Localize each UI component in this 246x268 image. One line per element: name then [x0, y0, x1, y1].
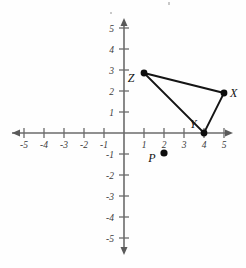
y-tick-label: 2: [109, 87, 114, 97]
point-labels: Z X Y P: [128, 71, 238, 165]
point-marker-x: [221, 90, 228, 97]
x-axis-right-arrow-icon: [225, 130, 233, 137]
y-axis-bottom-arrow-icon: [121, 247, 128, 255]
y-tick-label: -3: [106, 192, 114, 202]
coordinate-plane-figure: -5 -4 -3 -2 -1 1 2 3 4 5 1 2 3 4 5 -1 -2…: [0, 0, 246, 268]
y-tick-label: 4: [109, 45, 114, 55]
x-tick-label: 1: [142, 140, 147, 150]
x-tick-label: 2: [162, 140, 167, 150]
x-tick-label: -5: [20, 140, 28, 150]
x-tick-label: -2: [80, 140, 88, 150]
point-marker-z: [141, 70, 148, 77]
x-tick-label: 3: [181, 140, 187, 150]
y-tick-label: -2: [106, 171, 114, 181]
y-tick-label: -5: [106, 234, 114, 244]
x-axis-left-arrow-icon: [12, 130, 20, 137]
point-label-z: Z: [128, 71, 135, 85]
y-tick-label: 3: [108, 66, 114, 76]
x-tick-label: 4: [202, 140, 207, 150]
point-label-p: P: [147, 151, 156, 165]
scan-artifact: [168, 2, 170, 5]
triangle-xyz: [144, 73, 224, 133]
point-marker-y: [201, 130, 208, 137]
y-axis-top-arrow-icon: [121, 18, 128, 26]
point-label-x: X: [229, 86, 238, 100]
x-tick-label: -3: [60, 140, 68, 150]
y-tick-label: -4: [106, 213, 114, 223]
y-tick-label: 1: [109, 108, 114, 118]
plot-area: -5 -4 -3 -2 -1 1 2 3 4 5 1 2 3 4 5 -1 -2…: [0, 0, 246, 268]
y-tick-label: -1: [106, 150, 114, 160]
scan-artifact: [110, 12, 112, 14]
y-axis: [119, 18, 129, 255]
y-tick-label: 5: [109, 24, 114, 34]
point-label-y: Y: [190, 117, 198, 131]
point-marker-p: [160, 149, 167, 156]
x-tick-label: -1: [100, 140, 108, 150]
x-tick-label: -4: [40, 140, 48, 150]
x-tick-label: 5: [222, 140, 227, 150]
